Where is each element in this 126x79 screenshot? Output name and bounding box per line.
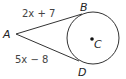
point-a-label: A (2, 28, 11, 41)
point-b-label: B (80, 1, 88, 14)
segment-ab-label: 2x + 7 (22, 8, 55, 19)
tangent-diagram: 2x + 7 5x − 8 A B C D (0, 0, 126, 79)
segment-ad-label: 5x − 8 (15, 54, 48, 65)
point-c-label: C (94, 38, 102, 51)
point-d-label: D (78, 66, 86, 79)
